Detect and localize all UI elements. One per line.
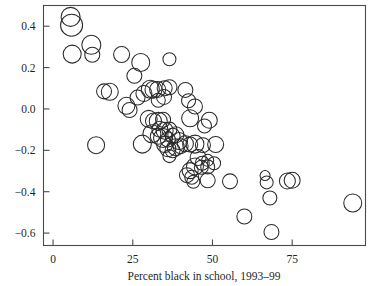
scatter-plot-figure: 0.40.20.0−0.2−0.4−0.6 0255075 Percent bl… [0,0,372,286]
x-tick-label: 0 [50,253,56,265]
scatter-plot-canvas: 0.40.20.0−0.2−0.4−0.6 0255075 Percent bl… [0,0,372,286]
x-axis-title: Percent black in school, 1993–99 [128,270,281,283]
y-tick-label: 0.2 [21,62,36,74]
plot-frame [44,6,366,246]
plot-border [44,6,366,246]
y-axis-tick-labels: 0.40.20.0−0.2−0.4−0.6 [15,20,36,239]
x-tick-label: 75 [286,253,298,265]
y-tick-label: 0.4 [21,20,36,32]
x-tick-label: 50 [207,253,219,265]
y-tick-label: −0.2 [15,144,36,156]
y-tick-label: −0.6 [15,227,36,239]
y-tick-label: 0.0 [21,103,36,115]
x-tick-label: 25 [127,253,139,265]
x-axis-tick-labels: 0255075 [50,253,298,265]
y-tick-label: −0.4 [15,186,36,198]
